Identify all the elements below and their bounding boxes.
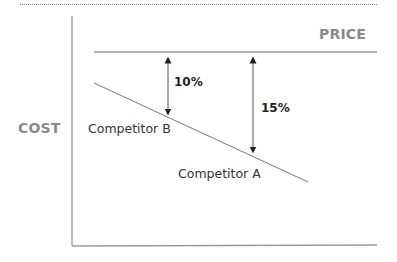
margin-10-label: 10%: [174, 75, 203, 89]
cost-axis-label: COST: [18, 120, 61, 136]
competitor-a-label: Competitor A: [178, 166, 261, 181]
competitor-b-label: Competitor B: [88, 121, 171, 136]
margin-15-label: 15%: [261, 101, 290, 115]
x-axis: [72, 245, 377, 246]
price-label: PRICE: [319, 26, 366, 42]
